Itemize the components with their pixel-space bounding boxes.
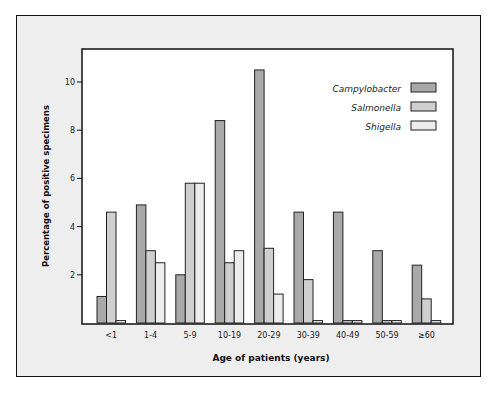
y-axis: 246810 [65,78,82,280]
y-tick-label: 6 [70,174,75,183]
bar-salmonella [422,299,432,323]
bar-campylobacter [412,265,422,323]
bar-shigella [313,321,323,323]
bar-campylobacter [333,212,343,323]
x-axis: <11-45-910-1920-2930-3940-4950-59≥60 [105,331,435,340]
bar-chart: 246810 <11-45-910-1920-2930-3940-4950-59… [0,0,497,394]
legend-label: Campylobacter [332,84,402,94]
x-tick-label: ≥60 [418,331,435,340]
x-tick-label: 10-19 [218,331,241,340]
bar-shigella [274,294,284,323]
legend-label: Salmonella [351,103,401,113]
legend-swatch [411,83,436,92]
bar-campylobacter [176,275,186,323]
y-tick-label: 4 [70,223,75,232]
x-tick-label: 40-49 [336,331,359,340]
x-tick-label: 30-39 [297,331,320,340]
bar-shigella [234,251,244,323]
bar-campylobacter [215,121,225,323]
bar-shigella [116,321,126,323]
bar-campylobacter [255,70,265,323]
bar-salmonella [185,183,195,323]
legend-label: Shigella [365,122,401,132]
bar-shigella [155,263,165,323]
bar-shigella [392,321,402,323]
x-tick-label: 20-29 [257,331,280,340]
y-tick-label: 10 [65,78,75,87]
x-axis-label: Age of patients (years) [212,353,329,363]
bar-salmonella [225,263,235,323]
bar-salmonella [264,248,274,323]
bar-campylobacter [373,251,383,323]
legend-swatch [411,121,436,130]
legend-swatch [411,102,436,111]
y-axis-label: Percentage of positive specimens [41,105,51,267]
bar-campylobacter [97,296,107,323]
x-tick-label: 1-4 [144,331,157,340]
bar-salmonella [107,212,117,323]
bar-salmonella [304,280,314,323]
y-tick-label: 2 [70,271,75,280]
bar-campylobacter [136,205,146,323]
bar-salmonella [343,321,353,323]
bar-shigella [352,321,362,323]
bar-salmonella [146,251,156,323]
bar-campylobacter [294,212,304,323]
bar-salmonella [382,321,392,323]
x-tick-label: 5-9 [184,331,197,340]
x-tick-label: 50-59 [375,331,398,340]
y-tick-label: 8 [70,126,75,135]
x-tick-label: <1 [105,331,117,340]
bar-shigella [195,183,205,323]
bar-shigella [431,321,441,323]
